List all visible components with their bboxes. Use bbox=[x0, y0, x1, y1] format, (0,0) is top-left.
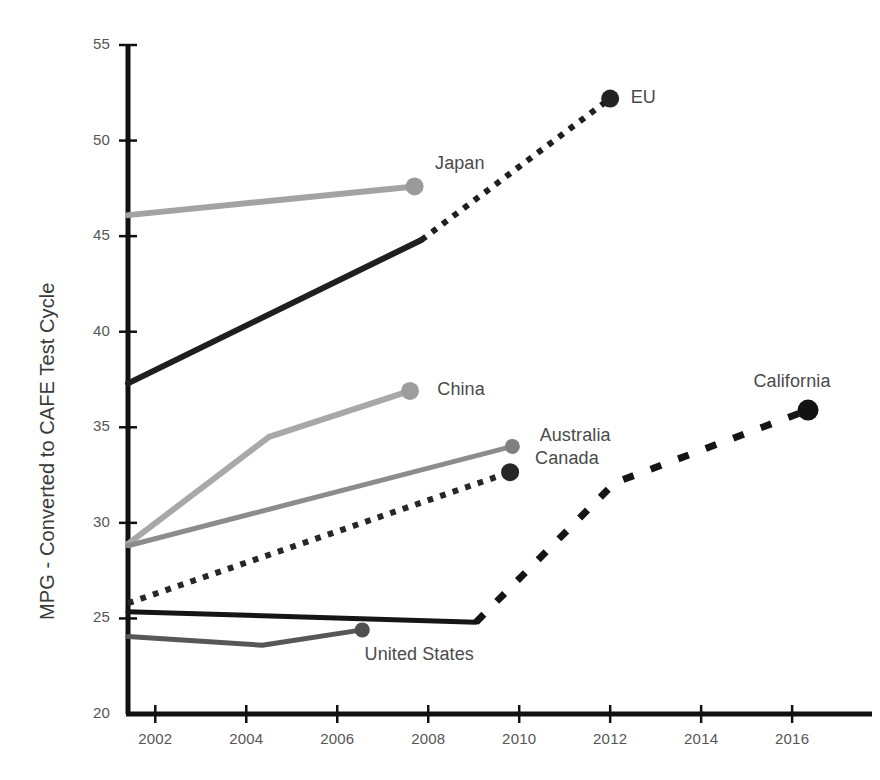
series-markers bbox=[355, 90, 819, 638]
y-tick-label: 45 bbox=[66, 226, 110, 243]
y-tick-label: 40 bbox=[66, 322, 110, 339]
x-tick-label: 2014 bbox=[661, 730, 741, 747]
y-tick-label: 35 bbox=[66, 417, 110, 434]
y-axis-title: MPG - Converted to CAFE Test Cycle bbox=[36, 200, 59, 620]
x-tick-label: 2016 bbox=[752, 730, 832, 747]
x-tick-label: 2010 bbox=[479, 730, 559, 747]
series-lines bbox=[128, 99, 808, 646]
series-label-eu: EU bbox=[631, 87, 656, 108]
x-tick-label: 2002 bbox=[115, 730, 195, 747]
y-tick-label: 20 bbox=[66, 704, 110, 721]
series-label-california: California bbox=[753, 371, 830, 392]
series-label-united-states: United States bbox=[365, 644, 474, 665]
x-tick-label: 2012 bbox=[570, 730, 650, 747]
y-tick-label: 30 bbox=[66, 513, 110, 530]
x-tick-label: 2006 bbox=[297, 730, 377, 747]
y-tick-label: 50 bbox=[66, 131, 110, 148]
chart-container: MPG - Converted to CAFE Test Cycle 20253… bbox=[0, 0, 880, 780]
series-label-canada: Canada bbox=[535, 448, 599, 469]
series-label-china: China bbox=[437, 379, 485, 400]
y-tick-label: 55 bbox=[66, 35, 110, 52]
x-tick-label: 2008 bbox=[388, 730, 468, 747]
series-label-australia: Australia bbox=[540, 425, 611, 446]
x-tick-label: 2004 bbox=[206, 730, 286, 747]
series-label-japan: Japan bbox=[435, 153, 485, 174]
y-tick-label: 25 bbox=[66, 608, 110, 625]
